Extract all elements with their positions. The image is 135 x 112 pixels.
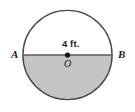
center-point-dot (65, 52, 70, 57)
circle-diagram-figure: A B O 4 ft. (0, 0, 135, 112)
label-center-o: O (64, 59, 71, 69)
circle-diagram-canvas (0, 0, 135, 112)
label-diameter-measure: 4 ft. (62, 39, 79, 49)
label-point-b: B (118, 49, 125, 60)
label-point-a: A (11, 49, 18, 60)
